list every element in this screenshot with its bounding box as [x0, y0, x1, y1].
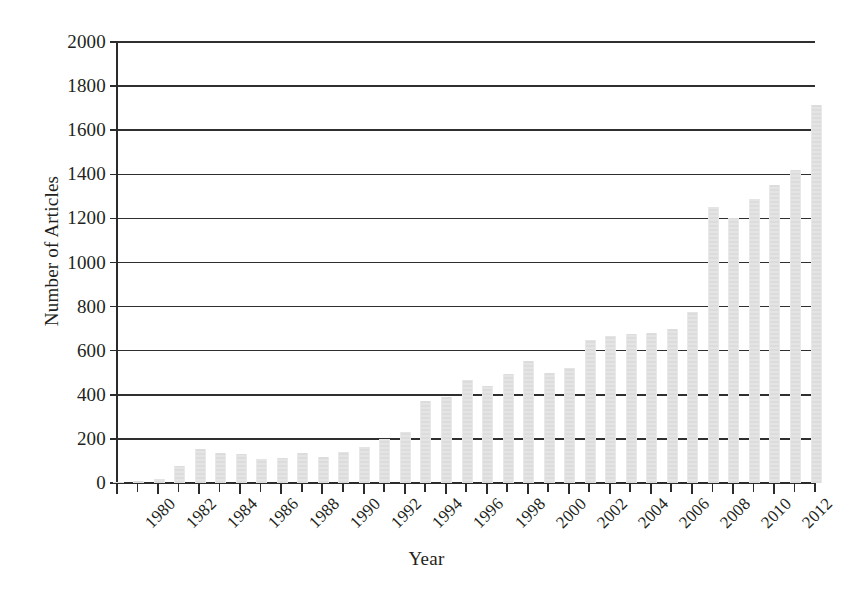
x-tick-label: 1998: [511, 494, 550, 533]
x-tick-label: 2008: [716, 494, 755, 533]
bar: [379, 439, 390, 483]
x-tick-mark: [239, 483, 241, 494]
y-tick-label: 1600: [67, 119, 106, 141]
x-tick-label: 2000: [552, 494, 591, 533]
x-tick-mark: [301, 483, 303, 492]
bar: [215, 453, 226, 483]
bar: [420, 401, 431, 483]
x-tick-mark: [424, 483, 426, 492]
bar: [236, 454, 247, 483]
bar: [359, 447, 370, 483]
x-tick-mark: [486, 483, 488, 494]
x-axis-title: Year: [0, 548, 853, 570]
x-tick-mark: [137, 483, 139, 492]
y-tick-mark: [110, 438, 118, 440]
y-tick-label: 400: [77, 384, 106, 406]
bar: [482, 386, 493, 483]
x-tick-mark: [568, 483, 570, 494]
bar: [585, 340, 596, 483]
y-tick-label: 2000: [67, 31, 106, 53]
bar: [400, 432, 411, 483]
plot-area: 0200400600800100012001400160018002000 19…: [117, 42, 815, 483]
bar: [297, 453, 308, 483]
bar: [687, 312, 698, 483]
x-tick-label: 1992: [388, 494, 427, 533]
x-tick-mark: [732, 483, 734, 494]
x-tick-mark: [506, 483, 508, 492]
bar: [462, 380, 473, 483]
x-tick-mark: [753, 483, 755, 492]
y-tick-label: 0: [96, 472, 106, 494]
x-tick-mark: [814, 483, 816, 492]
bar: [195, 449, 206, 483]
bar: [338, 452, 349, 483]
bar: [728, 218, 739, 483]
x-tick-mark: [260, 483, 262, 492]
bar: [667, 329, 678, 483]
x-tick-label: 2010: [757, 494, 796, 533]
x-tick-label: 1996: [470, 494, 509, 533]
bar: [811, 105, 822, 483]
bar: [441, 397, 452, 483]
x-tick-mark: [547, 483, 549, 492]
y-tick-mark: [110, 350, 118, 352]
x-tick-mark: [342, 483, 344, 492]
y-tick-mark: [110, 129, 118, 131]
x-tick-mark: [198, 483, 200, 494]
bar: [256, 459, 267, 483]
x-tick-mark: [691, 483, 693, 494]
x-tick-mark: [465, 483, 467, 492]
y-tick-mark: [110, 174, 118, 176]
x-tick-label: 2002: [593, 494, 632, 533]
x-tick-mark: [609, 483, 611, 494]
x-tick-mark: [670, 483, 672, 492]
y-tick-label: 800: [77, 296, 106, 318]
x-tick-label: 1994: [429, 494, 468, 533]
bar: [646, 333, 657, 483]
y-tick-label: 1200: [67, 207, 106, 229]
x-tick-mark: [116, 483, 118, 494]
x-tick-mark: [773, 483, 775, 494]
gridline: [117, 41, 815, 43]
bar: [318, 457, 329, 483]
x-tick-label: 1988: [305, 494, 344, 533]
x-tick-label: 1986: [264, 494, 303, 533]
gridline: [117, 85, 815, 87]
x-tick-label: 1990: [346, 494, 385, 533]
x-tick-label: 1984: [223, 494, 262, 533]
x-tick-mark: [527, 483, 529, 494]
y-tick-mark: [110, 262, 118, 264]
x-tick-mark: [794, 483, 796, 492]
x-tick-mark: [629, 483, 631, 492]
x-tick-mark: [445, 483, 447, 494]
bar: [544, 373, 555, 483]
bar: [605, 336, 616, 483]
x-tick-mark: [363, 483, 365, 494]
y-tick-mark: [110, 394, 118, 396]
x-tick-label: 2012: [798, 494, 837, 533]
y-tick-label: 1000: [67, 252, 106, 274]
bar: [708, 207, 719, 483]
x-tick-mark: [157, 483, 159, 494]
y-axis-title: Number of Articles: [41, 121, 63, 381]
x-tick-label: 1982: [182, 494, 221, 533]
bar: [503, 374, 514, 483]
x-tick-mark: [280, 483, 282, 494]
x-tick-label: 2006: [675, 494, 714, 533]
x-tick-label: 2004: [634, 494, 673, 533]
y-tick-label: 600: [77, 340, 106, 362]
chart-figure: Number of Articles 020040060080010001200…: [0, 0, 853, 597]
y-tick-label: 1800: [67, 75, 106, 97]
x-tick-mark: [650, 483, 652, 494]
gridline: [117, 174, 815, 176]
x-tick-mark: [404, 483, 406, 494]
bar: [133, 481, 144, 483]
bar: [749, 199, 760, 483]
y-tick-mark: [110, 85, 118, 87]
x-tick-mark: [588, 483, 590, 492]
gridline: [117, 129, 815, 131]
x-tick-label: 1980: [141, 494, 180, 533]
x-tick-mark: [712, 483, 714, 492]
y-tick-mark: [110, 41, 118, 43]
bar: [626, 334, 637, 483]
